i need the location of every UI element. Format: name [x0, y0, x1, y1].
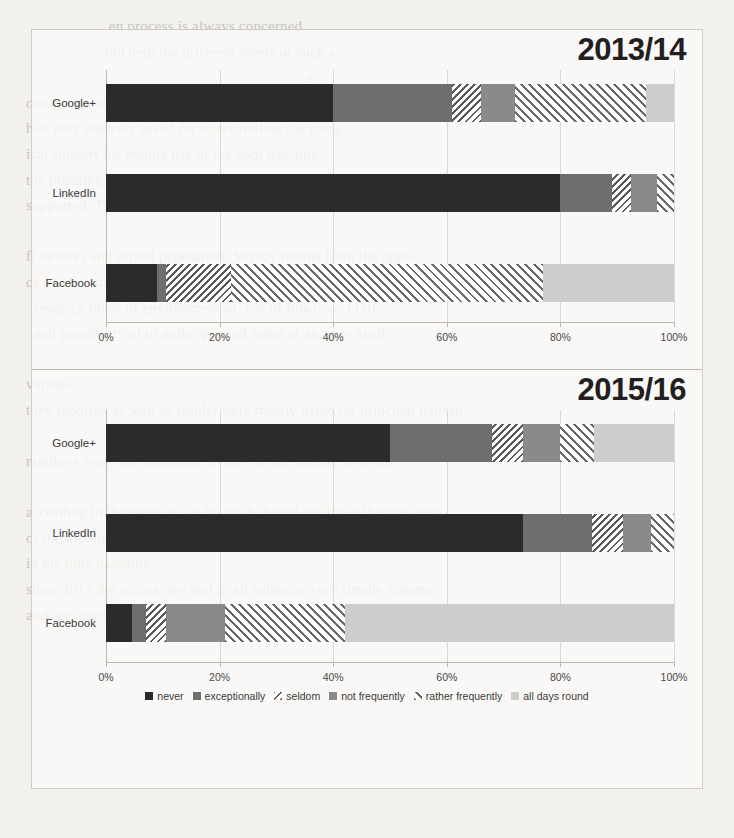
x-axis-tick: [560, 322, 561, 327]
bar-segment[interactable]: [623, 514, 651, 552]
legend-label: exceptionally: [205, 690, 266, 702]
legend-item[interactable]: not frequently: [329, 690, 405, 702]
bar-segment[interactable]: [106, 84, 333, 122]
x-axis-tick: [106, 662, 107, 667]
x-axis-2015-16: 0%20%40%60%80%100%: [106, 662, 674, 692]
bar-segment[interactable]: [106, 264, 157, 302]
legend-swatch-icon: [511, 692, 519, 700]
gridline-100: [674, 70, 675, 322]
x-axis-line: [106, 662, 674, 663]
x-axis-tick: [560, 662, 561, 667]
x-axis-tick-label: 100%: [661, 671, 688, 683]
bar-row: Google+: [106, 424, 674, 462]
bar-segment[interactable]: [560, 424, 594, 462]
chart-panel-2013-14: 2013/14 Google+LinkedInFacebook 0%20%40%…: [32, 30, 702, 370]
x-axis-tick-label: 80%: [550, 671, 571, 683]
stacked-bar[interactable]: [106, 84, 674, 122]
bar-segment[interactable]: [646, 84, 674, 122]
x-axis-tick-label: 40%: [323, 671, 344, 683]
bar-segment[interactable]: [492, 424, 523, 462]
bar-row-label: LinkedIn: [53, 527, 96, 539]
bar-segment[interactable]: [523, 514, 591, 552]
chart-legend: neverexceptionallyseldomnot frequentlyra…: [32, 690, 702, 702]
bar-row: Facebook: [106, 264, 674, 302]
bar-segment[interactable]: [333, 84, 452, 122]
bar-segment[interactable]: [390, 424, 492, 462]
x-axis-tick: [220, 322, 221, 327]
bar-segment[interactable]: [481, 84, 515, 122]
legend-label: rather frequently: [426, 690, 502, 702]
plot-area-2015-16: Google+LinkedInFacebook: [106, 410, 674, 662]
legend-label: seldom: [286, 690, 320, 702]
x-axis-tick: [447, 662, 448, 667]
bar-row-label: Google+: [52, 437, 96, 449]
bar-segment[interactable]: [106, 514, 523, 552]
legend-item[interactable]: seldom: [274, 690, 320, 702]
legend-swatch-icon: [274, 692, 282, 700]
stacked-bar[interactable]: [106, 424, 674, 462]
bar-segment[interactable]: [146, 604, 166, 642]
legend-label: not frequently: [341, 690, 405, 702]
panel-title-2015-16: 2015/16: [577, 372, 686, 408]
x-axis-tick-label: 20%: [209, 671, 230, 683]
x-axis-tick-label: 80%: [550, 331, 571, 343]
bar-segment[interactable]: [157, 264, 166, 302]
bar-segment[interactable]: [651, 514, 674, 552]
bar-segment[interactable]: [523, 424, 560, 462]
legend-swatch-icon: [414, 692, 422, 700]
bar-row: Google+: [106, 84, 674, 122]
bar-segment[interactable]: [543, 264, 674, 302]
x-axis-tick: [220, 662, 221, 667]
bar-segment[interactable]: [592, 514, 623, 552]
x-axis-tick: [674, 322, 675, 327]
bar-segment[interactable]: [106, 424, 390, 462]
gridline-100: [674, 410, 675, 662]
stacked-bar[interactable]: [106, 514, 674, 552]
chart-figure: 2013/14 Google+LinkedInFacebook 0%20%40%…: [31, 29, 703, 789]
bar-segment[interactable]: [657, 174, 674, 212]
bar-segment[interactable]: [106, 604, 132, 642]
legend-swatch-icon: [193, 692, 201, 700]
bar-segment[interactable]: [631, 174, 657, 212]
bar-segment[interactable]: [166, 604, 226, 642]
legend-item[interactable]: rather frequently: [414, 690, 502, 702]
panel-title-2013-14: 2013/14: [577, 32, 686, 68]
bar-segment[interactable]: [515, 84, 646, 122]
stacked-bar[interactable]: [106, 604, 674, 642]
legend-label: never: [157, 690, 183, 702]
stacked-bar[interactable]: [106, 174, 674, 212]
legend-swatch-icon: [329, 692, 337, 700]
bar-segment[interactable]: [225, 604, 344, 642]
bar-segment[interactable]: [594, 424, 674, 462]
bar-row: LinkedIn: [106, 174, 674, 212]
bar-segment[interactable]: [106, 174, 560, 212]
bar-segment[interactable]: [132, 604, 146, 642]
legend-item[interactable]: all days round: [511, 690, 588, 702]
legend-item[interactable]: never: [145, 690, 183, 702]
bar-row-label: Google+: [52, 97, 96, 109]
x-axis-tick-label: 40%: [323, 331, 344, 343]
bar-segment[interactable]: [166, 264, 231, 302]
x-axis-tick: [333, 662, 334, 667]
bar-segment[interactable]: [452, 84, 480, 122]
x-axis-tick-label: 60%: [436, 671, 457, 683]
bar-segment[interactable]: [231, 264, 543, 302]
stacked-bar[interactable]: [106, 264, 674, 302]
x-axis-tick-label: 20%: [209, 331, 230, 343]
legend-item[interactable]: exceptionally: [193, 690, 266, 702]
x-axis-2013-14: 0%20%40%60%80%100%: [106, 322, 674, 352]
bar-segment[interactable]: [345, 604, 674, 642]
x-axis-tick-label: 0%: [98, 331, 113, 343]
bar-rows-2015-16: Google+LinkedInFacebook: [106, 410, 674, 662]
legend-swatch-icon: [145, 692, 153, 700]
x-axis-tick: [447, 322, 448, 327]
x-axis-tick-label: 0%: [98, 671, 113, 683]
bar-segment[interactable]: [612, 174, 632, 212]
x-axis-line: [106, 322, 674, 323]
chart-panel-2015-16: 2015/16 Google+LinkedInFacebook 0%20%40%…: [32, 370, 702, 710]
bar-row-label: Facebook: [45, 277, 96, 289]
legend-label: all days round: [523, 690, 588, 702]
x-axis-tick-label: 60%: [436, 331, 457, 343]
bar-segment[interactable]: [560, 174, 611, 212]
bar-row-label: Facebook: [45, 617, 96, 629]
